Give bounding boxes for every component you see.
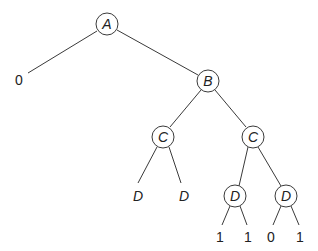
node-b: B [197,70,219,92]
leaf-l3: 0 [267,229,275,245]
node-label: A [101,16,111,32]
edge-c1-d2 [169,147,181,183]
node-label: D [281,188,291,204]
edge-d4-l4 [291,206,299,225]
leaf-value: 1 [244,229,252,245]
edge-b-c1 [170,90,201,127]
node-d1: D [133,188,143,204]
edge-d3-l2 [240,206,247,225]
node-label: D [179,188,189,204]
node-c2: C [242,126,264,148]
node-d3: D [224,185,246,207]
node-label: B [203,73,212,89]
leaf-value: 0 [15,72,23,88]
edge-d4-l3 [273,206,281,225]
node-d4: D [275,185,297,207]
edge-c2-d4 [258,147,281,186]
edge-c1-d1 [138,147,157,183]
node-a: A [96,13,118,35]
leaf-l1: 1 [216,229,224,245]
decision-tree-diagram: ABCCDDDD01101 [0,0,318,251]
edge-a-b [117,30,198,75]
edge-d3-l1 [222,206,230,225]
leaf-value: 0 [267,229,275,245]
node-label: C [158,129,169,145]
leaf-l0: 0 [15,72,23,88]
edge-c2-d3 [239,147,248,186]
node-label: D [230,188,240,204]
node-label: C [248,129,259,145]
leaf-value: 1 [296,229,304,245]
node-c1: C [152,126,174,148]
node-d2: D [179,188,189,204]
leaf-l2: 1 [244,229,252,245]
leaf-l4: 1 [296,229,304,245]
edge-b-c2 [215,90,246,127]
node-label: D [133,188,143,204]
leaf-value: 1 [216,229,224,245]
tree-nodes: ABCCDDDD01101 [15,13,304,245]
edge-a-l0 [28,31,97,73]
